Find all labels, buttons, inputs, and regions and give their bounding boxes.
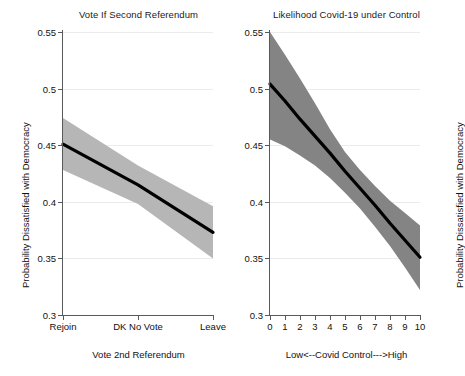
y-tick <box>58 202 63 203</box>
x-tick-label: 4 <box>327 321 332 332</box>
y-tick-label: 0.5 <box>43 83 56 94</box>
y-tick <box>265 89 270 90</box>
x-tick-label: 6 <box>357 321 362 332</box>
y-tick <box>58 89 63 90</box>
y-tick-label: 0.35 <box>38 253 57 264</box>
x-tick-label: 5 <box>342 321 347 332</box>
x-tick <box>405 315 406 320</box>
x-tick-label: DK No Vote <box>113 321 163 332</box>
x-tick <box>300 315 301 320</box>
y-tick <box>265 32 270 33</box>
fit-line-left <box>63 32 213 315</box>
x-tick-label: 8 <box>387 321 392 332</box>
plot-area-right: 0.30.350.40.450.50.55 012345678910 <box>270 32 420 315</box>
y-axis-label-left: Probability Dissatisfied with Democracy <box>20 122 31 288</box>
panel-vote-second-referendum: Vote If Second Referendum 0.30.350.40.45… <box>0 0 221 376</box>
x-tick-label: Rejoin <box>50 321 77 332</box>
x-axis-label-right: Low<--Covid Control--->High <box>218 349 457 360</box>
x-tick-label: 1 <box>282 321 287 332</box>
x-tick-label: 2 <box>297 321 302 332</box>
y-tick-label: 0.35 <box>245 253 264 264</box>
y-tick-label: 0.45 <box>38 140 57 151</box>
x-tick <box>285 315 286 320</box>
x-tick-label: 0 <box>267 321 272 332</box>
fit-line-path <box>270 84 420 257</box>
plot-area-left: 0.30.350.40.450.50.55 RejoinDK No VoteLe… <box>63 32 213 315</box>
x-tick <box>375 315 376 320</box>
x-tick-label: 3 <box>312 321 317 332</box>
x-tick <box>390 315 391 320</box>
x-tick-label: 9 <box>402 321 407 332</box>
fit-line-path <box>63 144 213 232</box>
x-tick <box>420 315 421 320</box>
y-tick-label: 0.55 <box>38 27 57 38</box>
y-tick <box>58 32 63 33</box>
y-axis-label-right: Probability Dissatisfied with Democracy <box>454 122 465 288</box>
y-axis-line-left <box>62 30 63 316</box>
x-tick <box>345 315 346 320</box>
y-tick <box>265 202 270 203</box>
y-tick-label: 0.55 <box>245 27 264 38</box>
y-tick-label: 0.4 <box>250 196 263 207</box>
x-tick <box>330 315 331 320</box>
x-tick <box>63 315 64 320</box>
y-tick <box>265 258 270 259</box>
y-tick-label: 0.4 <box>43 196 56 207</box>
y-tick-label: 0.3 <box>43 310 56 321</box>
x-tick <box>213 315 214 320</box>
y-tick-label: 0.3 <box>250 310 263 321</box>
panel-likelihood-covid-control: Likelihood Covid-19 under Control 0.30.3… <box>218 0 439 376</box>
x-tick <box>270 315 271 320</box>
x-tick <box>315 315 316 320</box>
fit-line-right <box>270 32 420 315</box>
y-tick <box>58 258 63 259</box>
x-tick <box>360 315 361 320</box>
y-tick <box>265 145 270 146</box>
y-axis-line-right <box>269 30 270 316</box>
y-tick-label: 0.45 <box>245 140 264 151</box>
panel-title-left: Vote If Second Referendum <box>0 9 249 20</box>
panel-title-right: Likelihood Covid-19 under Control <box>218 9 457 20</box>
x-tick <box>138 315 139 320</box>
y-tick <box>58 145 63 146</box>
x-tick-label: 10 <box>415 321 426 332</box>
x-axis-label-left: Vote 2nd Referendum <box>0 349 249 360</box>
x-tick-label: 7 <box>372 321 377 332</box>
y-tick-label: 0.5 <box>250 83 263 94</box>
